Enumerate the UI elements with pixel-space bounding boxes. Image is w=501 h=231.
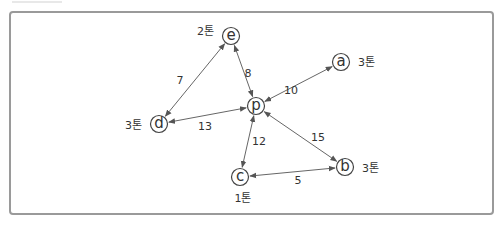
node-label: c — [236, 167, 244, 185]
node-a: a3톤 — [333, 52, 376, 71]
edge-distance-label: 13 — [198, 120, 212, 133]
node-e: e2톤 — [197, 25, 240, 45]
node-weight-label: 3톤 — [358, 56, 375, 69]
edge-distance-label: 5 — [295, 174, 302, 187]
node-weight-label: 1톤 — [235, 192, 252, 205]
node-label: p — [251, 96, 261, 114]
edge-p-a — [265, 67, 332, 102]
node-label: b — [340, 157, 350, 175]
node-p: p — [248, 96, 265, 115]
edge-p-b — [264, 112, 337, 162]
node-label: e — [226, 26, 235, 44]
node-weight-label: 3톤 — [362, 162, 379, 175]
network-graph: 10151213875 pa3톤b3톤c1톤d3톤e2톤 — [0, 0, 501, 231]
node-c: c1톤 — [232, 167, 252, 205]
edge-c-b — [250, 168, 335, 176]
edge-distance-label: 7 — [177, 74, 184, 87]
node-label: a — [336, 52, 345, 70]
edge-distance-label: 12 — [252, 135, 266, 148]
node-d: d3톤 — [125, 114, 168, 133]
node-weight-label: 2톤 — [197, 25, 214, 38]
node-weight-label: 3톤 — [125, 119, 142, 132]
node-label: d — [154, 114, 164, 132]
edge-d-e — [165, 44, 224, 117]
edge-distance-label: 15 — [311, 131, 325, 144]
edge-distance-label: 10 — [284, 84, 298, 97]
edge-distance-label: 8 — [245, 67, 252, 80]
node-b: b3톤 — [337, 157, 380, 176]
